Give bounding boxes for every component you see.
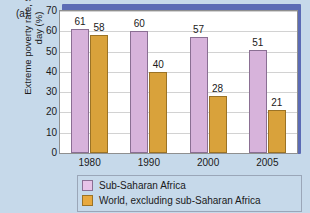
- bar-2005-series-2: [268, 110, 286, 153]
- y-axis-tick-10: 10: [46, 128, 57, 138]
- bar-2000-series-1: [190, 37, 208, 153]
- x-axis-tick-1980: 1980: [79, 157, 101, 168]
- x-axis-tick-2000: 2000: [197, 157, 219, 168]
- y-axis-tick-20: 20: [46, 107, 57, 117]
- y-axis-tick-labels: 010203040506070: [33, 7, 57, 153]
- bar-1990-series-2: [149, 72, 167, 153]
- y-axis-tick-40: 40: [46, 67, 57, 77]
- legend-swatch-1: [82, 180, 93, 191]
- bar-value-label: 60: [126, 19, 152, 29]
- y-axis-tick-0: 0: [51, 148, 57, 158]
- bar-value-label: 51: [245, 38, 271, 48]
- y-axis-tick-70: 70: [46, 6, 57, 16]
- bar-value-label: 58: [86, 23, 112, 33]
- x-axis-tick-labels: 1980199020002005: [59, 157, 298, 171]
- y-axis-tick-50: 50: [46, 47, 57, 57]
- y-axis-tick-60: 60: [46, 26, 57, 36]
- plot-area: 6158604057285121: [59, 10, 298, 154]
- bar-value-label: 28: [205, 84, 231, 94]
- bar-value-label: 40: [145, 60, 171, 70]
- chart-legend: Sub-Saharan AfricaWorld, excluding sub-S…: [77, 175, 302, 212]
- bar-2000-series-2: [209, 96, 227, 153]
- bar-1990-series-1: [130, 31, 148, 153]
- legend-label: World, excluding sub-Saharan Africa: [99, 195, 261, 207]
- bar-value-label: 57: [186, 25, 212, 35]
- x-axis-tick-2005: 2005: [256, 157, 278, 168]
- bars-layer: 6158604057285121: [60, 11, 297, 153]
- y-axis-tick-30: 30: [46, 87, 57, 97]
- bar-1980-series-1: [71, 29, 89, 153]
- legend-item-1: Sub-Saharan Africa: [82, 178, 297, 193]
- legend-item-2: World, excluding sub-Saharan Africa: [82, 193, 297, 208]
- legend-swatch-2: [82, 195, 93, 206]
- x-axis-tick-1990: 1990: [138, 157, 160, 168]
- legend-label: Sub-Saharan Africa: [99, 180, 186, 192]
- bar-value-label: 21: [264, 98, 290, 108]
- bar-1980-series-2: [90, 35, 108, 153]
